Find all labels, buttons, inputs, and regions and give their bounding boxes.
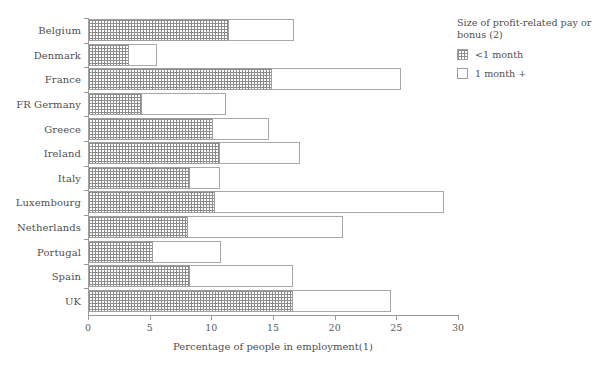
bar-row: Denmark (88, 44, 458, 66)
category-label: UK (65, 295, 81, 306)
x-axis-tick-label: 25 (390, 322, 402, 333)
bar-row: Italy (88, 167, 458, 189)
bar-row: Luxembourg (88, 191, 458, 213)
x-axis-tick (396, 315, 397, 320)
category-label: Greece (44, 123, 81, 134)
x-axis-tick-label: 0 (85, 322, 91, 333)
bar-row: Netherlands (88, 216, 458, 238)
category-label: France (45, 74, 81, 85)
x-axis-tick (150, 315, 151, 320)
bar-row: UK (88, 290, 458, 312)
y-axis-tick (84, 166, 88, 167)
bar-row: France (88, 68, 458, 90)
category-label: Denmark (34, 49, 81, 60)
category-label: Belgium (38, 25, 81, 36)
y-axis-tick (84, 239, 88, 240)
category-label: Spain (52, 271, 81, 282)
bar-segment-under-1-month (88, 265, 190, 287)
bar-row: FR Germany (88, 93, 458, 115)
bar-row: Portugal (88, 241, 458, 263)
x-axis-tick (335, 315, 336, 320)
x-axis-tick (273, 315, 274, 320)
bar-row: Spain (88, 265, 458, 287)
bar-segment-under-1-month (88, 290, 293, 312)
bar-row: Belgium (88, 19, 458, 41)
bar-segment-under-1-month (88, 44, 129, 66)
x-axis-tick-label: 15 (267, 322, 279, 333)
y-axis-tick (84, 43, 88, 44)
bar-segment-under-1-month (88, 68, 272, 90)
x-axis-tick-label: 5 (147, 322, 153, 333)
x-axis-tick (458, 315, 459, 320)
bar-segment-under-1-month (88, 167, 190, 189)
y-axis-tick (84, 264, 88, 265)
bar-chart: BelgiumDenmarkFranceFR GermanyGreeceIrel… (0, 0, 598, 370)
y-axis-tick (84, 67, 88, 68)
category-label: Luxembourg (16, 197, 81, 208)
bar-segment-under-1-month (88, 118, 213, 140)
y-axis-tick (84, 92, 88, 93)
bar-segment-under-1-month (88, 191, 215, 213)
legend-item-label: <1 month (475, 49, 523, 60)
x-axis-tick (88, 315, 89, 320)
bar-segment-under-1-month (88, 19, 229, 41)
legend-item-label: 1 month + (475, 68, 526, 79)
category-label: Ireland (44, 148, 81, 159)
x-axis-tick-label: 10 (205, 322, 217, 333)
bar-row: Greece (88, 118, 458, 140)
legend-item: <1 month (457, 49, 595, 60)
category-label: Italy (58, 172, 81, 183)
legend-title: Size of profit-related pay or bonus (2) (457, 17, 595, 41)
category-label: Portugal (37, 246, 81, 257)
x-axis-tick-label: 30 (452, 322, 464, 333)
legend-items: <1 month1 month + (457, 49, 595, 79)
y-axis-tick (84, 18, 88, 19)
x-axis-tick (211, 315, 212, 320)
bar-segment-under-1-month (88, 241, 153, 263)
bar-row: Ireland (88, 142, 458, 164)
y-axis-tick (84, 190, 88, 191)
y-axis-tick (84, 215, 88, 216)
legend-item: 1 month + (457, 68, 595, 79)
x-axis-title: Percentage of people in employment(1) (88, 341, 458, 352)
bar-segment-under-1-month (88, 93, 142, 115)
y-axis-tick (84, 288, 88, 289)
y-axis-tick (84, 141, 88, 142)
category-label: Netherlands (17, 221, 81, 232)
bar-segment-under-1-month (88, 142, 220, 164)
x-axis-tick-label: 20 (329, 322, 341, 333)
plot-area: BelgiumDenmarkFranceFR GermanyGreeceIrel… (88, 18, 458, 313)
y-axis-tick (84, 116, 88, 117)
category-label: FR Germany (16, 99, 81, 110)
legend-swatch-hatched-icon (457, 49, 468, 60)
chart-legend: Size of profit-related pay or bonus (2) … (457, 17, 595, 87)
x-axis-ticks: 051015202530 (88, 315, 458, 339)
legend-swatch-empty-icon (457, 68, 468, 79)
bar-segment-under-1-month (88, 216, 188, 238)
